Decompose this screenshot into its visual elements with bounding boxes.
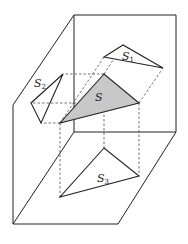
floor-plane — [13, 132, 176, 224]
label-S2: S2 — [34, 77, 46, 91]
label-S: S — [95, 91, 103, 104]
label-S3: S3 — [97, 172, 109, 186]
projection-diagram: S S1 S2 S3 — [0, 0, 188, 244]
